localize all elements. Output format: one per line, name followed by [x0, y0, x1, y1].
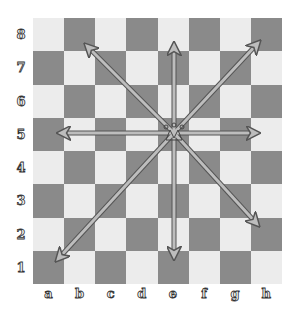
arrow-fill-group — [57, 42, 259, 260]
arrow-south-west — [57, 133, 174, 260]
arrow-north-west — [86, 45, 174, 133]
arrow-north-east — [174, 42, 259, 133]
queen-move-arrows — [0, 0, 296, 318]
arrow-south-east — [174, 133, 258, 225]
